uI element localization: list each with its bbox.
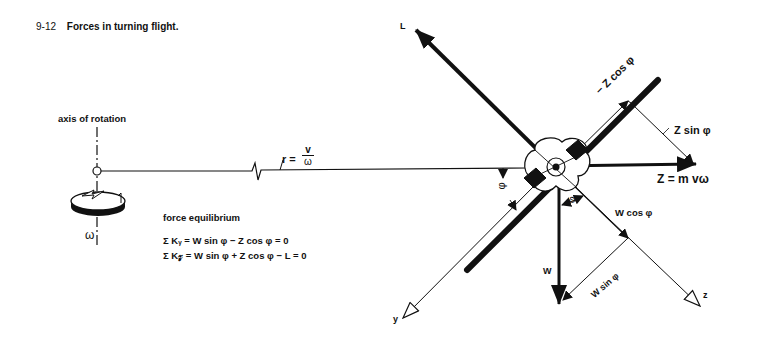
equilibrium-equation-y: Σ Kᵧ = W sin φ − Z cos φ = 0 [163, 235, 288, 246]
w-cos-label: W cos φ [615, 207, 652, 218]
y-axis-arrow [403, 180, 540, 318]
weight-label: W [543, 266, 552, 276]
y-axis-label: y [393, 314, 398, 324]
pivot-point [93, 167, 101, 175]
z-sin-label: Z sin φ [674, 124, 711, 136]
equilibrium-equation-z: Σ K𝓏 = W sin φ + Z cos φ − L = 0 [163, 250, 306, 262]
radius-label: r = [282, 153, 296, 165]
omega-label: ω [85, 228, 94, 242]
radius-numerator: v [302, 144, 314, 156]
radius-line [101, 160, 528, 180]
equilibrium-heading: force equilibrium [163, 212, 240, 223]
axis-of-rotation-label: axis of rotation [58, 113, 126, 124]
rotation-disc-icon [71, 190, 125, 216]
radius-denominator: ω [302, 156, 314, 167]
diagram-canvas [0, 0, 767, 337]
bank-angle-label-left: φ [495, 182, 507, 189]
centrifugal-label: Z = m vω [657, 172, 709, 186]
z-axis-label: z [703, 290, 708, 300]
lift-label: L [400, 21, 406, 31]
